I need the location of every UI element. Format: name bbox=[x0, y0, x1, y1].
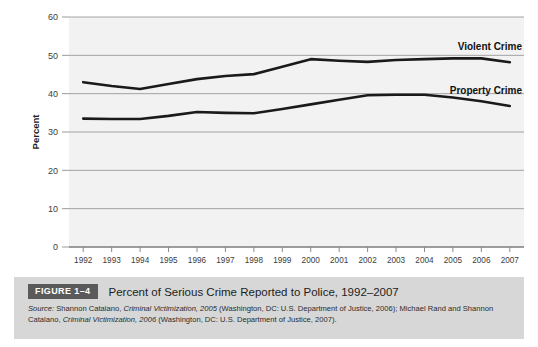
x-tick-label-2000: 2000 bbox=[302, 256, 321, 265]
x-tick-label-1995: 1995 bbox=[159, 256, 178, 265]
series-label-property-crime: Property Crime bbox=[450, 85, 523, 96]
y-tick-label-40: 40 bbox=[48, 89, 58, 99]
figure-source-note: Source: Shannon Catalano, Criminal Victi… bbox=[28, 304, 510, 325]
chart-area: 0102030405060 19921993199419951996199719… bbox=[0, 0, 538, 272]
figure-title: Percent of Serious Crime Reported to Pol… bbox=[109, 286, 399, 298]
x-tick-label-2002: 2002 bbox=[358, 256, 377, 265]
source-italic-title-1: Criminal Victimization, 2005 bbox=[123, 304, 217, 313]
y-tick-label-50: 50 bbox=[48, 51, 58, 61]
series-label-violent-crime: Violent Crime bbox=[458, 41, 523, 52]
y-tick-label-20: 20 bbox=[48, 166, 58, 176]
figure-container: 0102030405060 19921993199419951996199719… bbox=[0, 0, 538, 347]
source-text-part-1: Shannon Catalano, bbox=[54, 304, 123, 313]
y-tick-label-0: 0 bbox=[53, 242, 58, 252]
x-tick-label-2001: 2001 bbox=[330, 256, 349, 265]
x-tick-label-2007: 2007 bbox=[501, 256, 520, 265]
x-tick-label-1994: 1994 bbox=[131, 256, 150, 265]
figure-number-badge: FIGURE 1–4 bbox=[28, 284, 98, 299]
x-tick-label-2003: 2003 bbox=[387, 256, 406, 265]
x-tick-label-1996: 1996 bbox=[188, 256, 207, 265]
caption-title-row: FIGURE 1–4 Percent of Serious Crime Repo… bbox=[28, 284, 510, 299]
x-tick-label-2006: 2006 bbox=[472, 256, 491, 265]
x-tick-label-1992: 1992 bbox=[74, 256, 93, 265]
source-italic-title-2: Criminal Victimization, 2006 bbox=[63, 315, 157, 324]
source-label: Source: bbox=[28, 304, 54, 313]
x-axis bbox=[69, 247, 524, 252]
y-tick-label-10: 10 bbox=[48, 204, 58, 214]
y-axis-title: Percent bbox=[30, 114, 41, 150]
x-tick-label-2005: 2005 bbox=[444, 256, 463, 265]
x-tick-label-1999: 1999 bbox=[273, 256, 292, 265]
caption-panel: FIGURE 1–4 Percent of Serious Crime Repo… bbox=[14, 277, 524, 339]
line-chart: 0102030405060 19921993199419951996199719… bbox=[0, 0, 538, 272]
y-axis-tick-labels: 0102030405060 bbox=[48, 12, 58, 252]
y-tick-label-30: 30 bbox=[48, 127, 58, 137]
source-text-part-3: (Washington, DC: U.S. Department of Just… bbox=[156, 315, 336, 324]
y-tick-label-60: 60 bbox=[48, 12, 58, 22]
x-tick-label-2004: 2004 bbox=[415, 256, 434, 265]
x-axis-tick-labels: 1992199319941995199619971998199920002001… bbox=[74, 256, 519, 265]
x-tick-label-1997: 1997 bbox=[216, 256, 235, 265]
x-tick-label-1993: 1993 bbox=[103, 256, 122, 265]
x-tick-label-1998: 1998 bbox=[245, 256, 264, 265]
